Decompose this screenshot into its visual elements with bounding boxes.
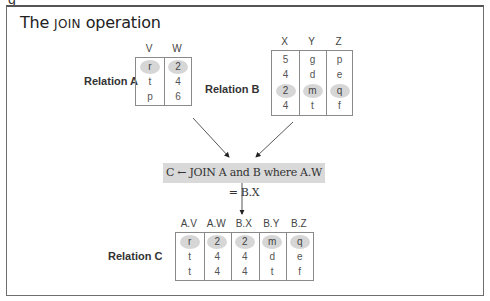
column-divider xyxy=(231,233,232,280)
highlighted-cell: 2 xyxy=(235,235,255,249)
highlighted-cell: q xyxy=(290,235,310,249)
table-cell: 4 xyxy=(207,250,227,264)
table-cell: 4 xyxy=(235,265,255,279)
arrow-a-to-op xyxy=(193,118,229,157)
column-header: B.Z xyxy=(285,218,313,229)
table-cell: e xyxy=(290,250,310,264)
table-cell: f xyxy=(290,265,310,279)
relation-c-label: Relation C xyxy=(108,250,162,262)
highlighted-cell: r xyxy=(180,235,200,249)
table-cell: d xyxy=(262,250,282,264)
table-cell: t xyxy=(180,250,200,264)
column-header: B.Y xyxy=(258,218,286,229)
column-header: B.X xyxy=(230,218,258,229)
column-header: A.V xyxy=(175,218,203,229)
join-operation-box: C ← JOIN A and B where A.W = B.X xyxy=(163,163,325,183)
column-header: A.W xyxy=(203,218,231,229)
table-cell: 4 xyxy=(235,250,255,264)
column-divider xyxy=(259,233,260,280)
highlighted-cell: m xyxy=(262,235,282,249)
table-cell: t xyxy=(180,265,200,279)
table-cell: 4 xyxy=(207,265,227,279)
table-cell: t xyxy=(262,265,282,279)
arrow-b-to-op xyxy=(256,122,293,157)
column-divider xyxy=(204,233,205,280)
highlighted-cell: 2 xyxy=(207,235,227,249)
column-divider xyxy=(286,233,287,280)
